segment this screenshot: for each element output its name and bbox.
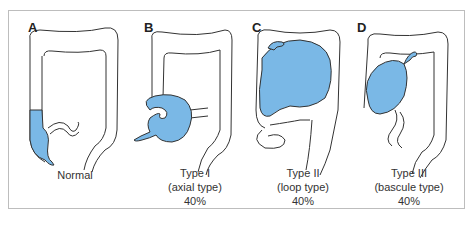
panel-c-dilated-loop bbox=[259, 40, 331, 116]
panel-a-colon bbox=[30, 28, 118, 172]
panel-b-twisted-segment bbox=[134, 95, 192, 142]
panel-c-type: Type II bbox=[248, 166, 358, 180]
panel-d-folded-cecum bbox=[366, 60, 407, 114]
panel-d-percent: 40% bbox=[354, 194, 464, 208]
panel-a-label: A bbox=[28, 20, 37, 35]
panel-b-type: Type I bbox=[140, 166, 250, 180]
panel-b-percent: 40% bbox=[140, 194, 250, 208]
panel-b-transverse-stub bbox=[190, 108, 208, 118]
panel-b-label: B bbox=[144, 20, 153, 35]
panel-c-percent: 40% bbox=[248, 194, 358, 208]
panel-d-subtype: (bascule type) bbox=[354, 180, 464, 194]
panel-b-subtype: (axial type) bbox=[140, 180, 250, 194]
panel-c-loop-lower bbox=[257, 120, 310, 148]
panel-d-type: Type III bbox=[354, 166, 464, 180]
panel-a-sigmoid bbox=[48, 122, 79, 131]
panel-a-cecum-contrast bbox=[30, 110, 54, 165]
panel-c-label: C bbox=[252, 20, 261, 35]
panel-b-colon bbox=[134, 30, 232, 175]
panel-d-caption: Type III (bascule type) 40% bbox=[354, 166, 464, 208]
panel-a-sigmoid-inner bbox=[50, 128, 79, 136]
panel-d-label: D bbox=[357, 20, 366, 35]
panel-c-descending-inner bbox=[306, 120, 312, 170]
panel-d-sigmoid bbox=[388, 110, 404, 148]
panel-c-caption: Type II (loop type) 40% bbox=[248, 166, 358, 208]
panel-c-colon bbox=[256, 30, 340, 175]
panel-b-colon-left-inner bbox=[163, 58, 164, 98]
panel-b-caption: Type I (axial type) 40% bbox=[140, 166, 250, 208]
panel-a-colon-inner bbox=[44, 50, 106, 170]
panel-d-colon bbox=[364, 32, 448, 178]
panel-a-caption: Normal bbox=[20, 168, 130, 182]
panel-c-subtype: (loop type) bbox=[248, 180, 358, 194]
panel-a-caption-line-1: Normal bbox=[20, 168, 130, 182]
